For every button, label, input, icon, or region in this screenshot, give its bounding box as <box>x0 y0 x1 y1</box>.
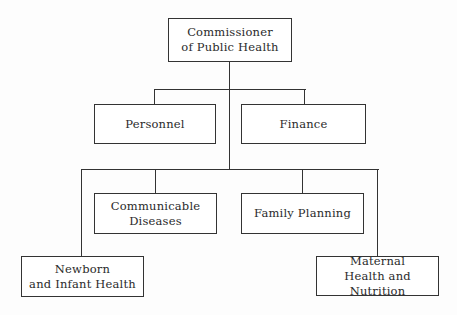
newborn-drop-line <box>81 169 82 256</box>
personnel-box: Personnel <box>94 104 216 144</box>
newborn-infant-health-box: Newborn and Infant Health <box>21 256 144 297</box>
trunk-line <box>229 62 230 170</box>
communicable-label-line2: Diseases <box>129 214 182 229</box>
newborn-label-line2: and Infant Health <box>29 277 136 292</box>
communicable-label-line1: Communicable <box>111 199 201 214</box>
upper-bus-line <box>154 89 306 90</box>
lower-bus-line <box>81 169 379 170</box>
maternal-label-line1: Maternal <box>350 254 405 269</box>
commissioner-label-line1: Commissioner <box>187 25 273 40</box>
newborn-label-line1: Newborn <box>55 262 110 277</box>
communicable-diseases-box: Communicable Diseases <box>94 193 217 234</box>
family-planning-box: Family Planning <box>241 193 364 234</box>
maternal-drop-line <box>377 169 378 256</box>
family-planning-drop-line <box>302 169 303 193</box>
finance-label: Finance <box>280 117 328 132</box>
maternal-label-line2: Health and Nutrition <box>317 269 438 299</box>
commissioner-label-line2: of Public Health <box>181 40 278 55</box>
personnel-label: Personnel <box>125 117 184 132</box>
personnel-drop-line <box>154 89 155 104</box>
family-planning-label: Family Planning <box>254 206 351 221</box>
finance-drop-line <box>304 89 305 104</box>
maternal-health-nutrition-box: Maternal Health and Nutrition <box>316 256 439 296</box>
communicable-drop-line <box>155 169 156 193</box>
commissioner-box: Commissioner of Public Health <box>168 18 292 62</box>
org-chart: Commissioner of Public Health Personnel … <box>0 0 457 315</box>
finance-box: Finance <box>241 104 366 144</box>
